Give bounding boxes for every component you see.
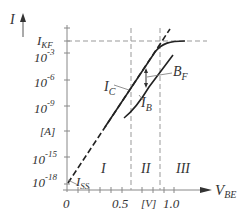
bjt-current-diagram: I IKF 10-3 10-6 10-9 [A] 10-15 10-18 0 0… [0, 0, 250, 219]
y-arrow-head-icon [20, 13, 26, 22]
xtick-0: 0 [63, 196, 70, 211]
x-arrow-head-icon [200, 187, 212, 193]
region-iii: III [175, 161, 191, 176]
region-ii: II [140, 161, 152, 176]
label-bf: BF [173, 64, 189, 82]
ic-leader [114, 85, 129, 90]
tick-unit-a: [A] [40, 125, 55, 137]
label-ic: IC [103, 79, 116, 97]
x-axis-label: VBE [215, 182, 236, 200]
tick-1e-9: 10-9 [34, 98, 55, 116]
tick-1e-15: 10-15 [32, 149, 57, 167]
label-ib: IB [140, 95, 152, 113]
tick-1e-3: 10-3 [34, 47, 55, 65]
region-i: I [100, 161, 107, 176]
bf-arrow-bottom-icon [144, 83, 148, 88]
xtick-1-0: 1.0 [163, 196, 180, 211]
y-axis-label: I [9, 12, 16, 27]
tick-1e-18: 10-18 [32, 172, 57, 190]
xtick-0-5: 0.5 [112, 196, 129, 211]
tick-1e-6: 10-6 [34, 72, 55, 90]
xtick-unit-v: [V] [141, 197, 156, 209]
label-iss: ISS [75, 174, 90, 191]
